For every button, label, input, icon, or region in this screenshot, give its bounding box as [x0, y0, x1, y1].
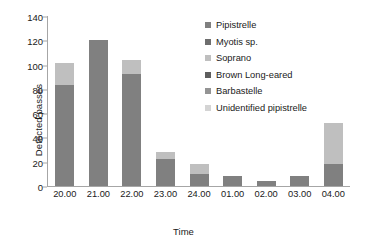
stacked-bar[interactable] — [156, 152, 175, 186]
y-axis-tick-label: 80 — [32, 84, 43, 95]
x-axis-tick-label: 01.00 — [221, 189, 244, 199]
stacked-bar[interactable] — [324, 123, 343, 186]
chart-legend: PipistrelleMyotis sp.SopranoBrown Long-e… — [205, 20, 365, 120]
legend-item-pipistrelle[interactable]: Pipistrelle — [205, 20, 365, 30]
y-axis-tick-mark — [43, 162, 47, 163]
stacked-bar[interactable] — [290, 176, 309, 186]
x-axis-line — [47, 186, 350, 187]
bar-category-23-00[interactable]: 23.00 — [149, 16, 183, 186]
plot-area: 020406080100120140 20.0021.0022.0023.002… — [47, 16, 199, 187]
legend-item-barbastelle[interactable]: Barbastelle — [205, 86, 365, 96]
y-axis-tick-mark — [43, 41, 47, 42]
bar-segment-soprano[interactable] — [324, 123, 343, 164]
legend-item-unidentified-pipistrelle[interactable]: Unidentified pipistrelle — [205, 103, 365, 113]
legend-swatch-icon — [205, 105, 211, 111]
legend-item-myotis-sp-[interactable]: Myotis sp. — [205, 37, 365, 47]
y-axis-tick-label: 140 — [27, 12, 43, 23]
stacked-bar[interactable] — [190, 164, 209, 186]
stacked-bar[interactable] — [257, 181, 276, 186]
bar-category-22-00[interactable]: 22.00 — [115, 16, 149, 186]
legend-swatch-icon — [205, 22, 211, 28]
bar-category-21-00[interactable]: 21.00 — [82, 16, 116, 186]
y-axis-tick-label: 120 — [27, 36, 43, 47]
stacked-bar[interactable] — [122, 60, 141, 186]
y-axis-tick-label: 100 — [27, 60, 43, 71]
legend-swatch-icon — [205, 39, 211, 45]
legend-swatch-icon — [205, 88, 211, 94]
x-axis-tick-label: 02.00 — [255, 189, 278, 199]
y-axis-tick-label: 40 — [32, 133, 43, 144]
legend-swatch-icon — [205, 55, 211, 61]
legend-item-label: Pipistrelle — [216, 20, 256, 30]
y-axis-tick-label: 20 — [32, 157, 43, 168]
bar-segment-pipistrelle[interactable] — [223, 176, 242, 186]
y-axis-tick-mark — [43, 89, 47, 90]
y-axis-tick-mark — [43, 17, 47, 18]
bat-activity-stacked-bar-chart: Detected passes 020406080100120140 20.00… — [0, 0, 367, 239]
bar-segment-pipistrelle[interactable] — [55, 85, 74, 186]
legend-item-label: Brown Long-eared — [216, 70, 293, 80]
legend-swatch-icon — [205, 72, 211, 78]
stacked-bar[interactable] — [223, 176, 242, 186]
bar-segment-pipistrelle[interactable] — [156, 159, 175, 186]
stacked-bar[interactable] — [55, 63, 74, 186]
legend-item-soprano[interactable]: Soprano — [205, 53, 365, 63]
x-axis-tick-label: 03.00 — [288, 189, 311, 199]
bar-segment-soprano[interactable] — [122, 60, 141, 75]
legend-item-label: Soprano — [216, 53, 251, 63]
legend-item-label: Myotis sp. — [216, 37, 258, 47]
x-axis-tick-label: 24.00 — [187, 189, 210, 199]
bar-segment-pipistrelle[interactable] — [190, 174, 209, 186]
bar-segment-pipistrelle[interactable] — [89, 40, 108, 186]
x-axis-tick-label: 21.00 — [87, 189, 110, 199]
bar-segment-soprano[interactable] — [156, 152, 175, 159]
x-axis-tick-label: 04.00 — [322, 189, 345, 199]
y-axis-tick-mark — [43, 114, 47, 115]
bar-category-20-00[interactable]: 20.00 — [48, 16, 82, 186]
legend-item-brown-long-eared[interactable]: Brown Long-eared — [205, 70, 365, 80]
y-axis-tick-label: 60 — [32, 109, 43, 120]
bar-segment-pipistrelle[interactable] — [290, 176, 309, 186]
x-axis-tick-label: 22.00 — [120, 189, 143, 199]
bar-segment-soprano[interactable] — [55, 63, 74, 85]
stacked-bar[interactable] — [89, 40, 108, 186]
bar-segment-pipistrelle[interactable] — [257, 181, 276, 186]
y-axis-tick-mark — [43, 138, 47, 139]
x-axis-tick-label: 23.00 — [154, 189, 177, 199]
y-axis-tick-mark — [43, 65, 47, 66]
x-axis-tick-label: 20.00 — [53, 189, 76, 199]
x-axis-title: Time — [0, 226, 367, 237]
bar-segment-pipistrelle[interactable] — [324, 164, 343, 186]
bar-segment-soprano[interactable] — [190, 164, 209, 174]
y-axis-tick-mark — [43, 187, 47, 188]
legend-item-label: Unidentified pipistrelle — [216, 103, 307, 113]
legend-item-label: Barbastelle — [216, 86, 263, 96]
bar-segment-pipistrelle[interactable] — [122, 74, 141, 186]
